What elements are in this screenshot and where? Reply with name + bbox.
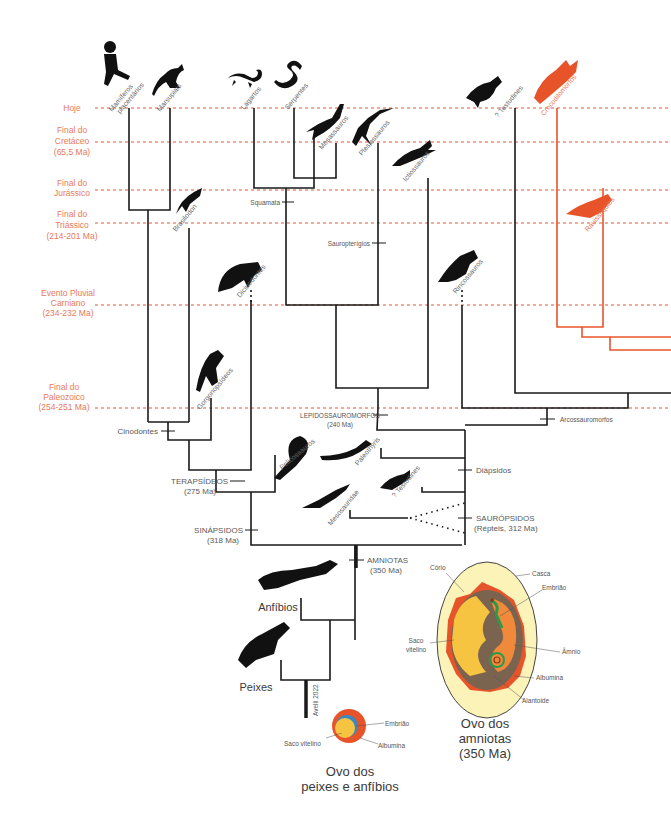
clade-label-amniotas: AMNIOTAS bbox=[367, 556, 408, 565]
clade-label-sinapsidos: (318 Ma) bbox=[207, 536, 239, 545]
egg-label-alantoide: Alantoide bbox=[522, 697, 549, 704]
egg-label-corio: Cório bbox=[430, 564, 446, 571]
amniote-egg-title: amniotas bbox=[459, 731, 512, 746]
era-labels: Hoje Final do Cretáceo (65,5 Ma) Final d… bbox=[38, 103, 97, 412]
clade-label-lepidossauromorfos: LEPIDOSSAUROMORFOS bbox=[300, 412, 380, 419]
clade-label-sauropterigios: Sauropterígios bbox=[328, 240, 371, 248]
phylogeny-diagram: Hoje Final do Cretáceo (65,5 Ma) Final d… bbox=[0, 0, 671, 830]
amphibian-silhouette-icon bbox=[258, 560, 338, 590]
clade-label-diapsidos: Diápsidos bbox=[476, 466, 511, 475]
fish-silhouette-icon bbox=[238, 622, 290, 668]
silhouettes bbox=[104, 41, 502, 668]
era-label-paleozoico: Final do bbox=[49, 382, 80, 392]
era-label-cretaceo: (65,5 Ma) bbox=[54, 147, 91, 157]
fish-egg-label-embriao: Embrião bbox=[385, 720, 410, 727]
era-label-triassico: Triássico bbox=[55, 220, 89, 230]
egg-label-casca: Casca bbox=[532, 570, 551, 577]
kangaroo-silhouette-icon bbox=[152, 64, 184, 96]
taxon-labels: Mamíferos placentários Marsupiais Brasil… bbox=[107, 73, 616, 527]
clade-label-lepidossauromorfos: (240 Ma) bbox=[327, 421, 353, 429]
era-label-jurassico: Final do bbox=[57, 178, 88, 188]
clade-label-squamata: Squamata bbox=[250, 199, 280, 207]
orange-silhouettes bbox=[534, 60, 612, 218]
era-label-triassico: (214-201 Ma) bbox=[46, 231, 97, 241]
era-label-carniano: (234-232 Ma) bbox=[42, 308, 93, 318]
clade-label-terapsideos: (275 Ma) bbox=[184, 487, 216, 496]
taxon-label-lagartos: Lagartos bbox=[239, 85, 263, 111]
egg-label-amnio: Âmnio bbox=[562, 647, 581, 655]
era-label-carniano: Carniano bbox=[51, 298, 86, 308]
era-label-triassico: Final do bbox=[57, 209, 88, 219]
clade-label-terapsideos: TERAPSÍDEOS bbox=[171, 477, 228, 486]
era-label-hoje: Hoje bbox=[63, 103, 81, 113]
era-label-cretaceo: Final do bbox=[57, 125, 88, 135]
clade-label-cinodontes: Cinodontes bbox=[118, 427, 158, 436]
clade-label-amniotas: (350 Ma) bbox=[370, 566, 402, 575]
fish-egg-title: peixes e anfíbios bbox=[301, 779, 399, 794]
crocodilomorph-branches bbox=[557, 108, 671, 350]
fish-egg-title: Ovo dos bbox=[326, 764, 375, 779]
turtle-silhouette-icon bbox=[466, 76, 502, 108]
egg-label-embriao: Embrião bbox=[542, 584, 567, 591]
lizard-silhouette-icon bbox=[228, 70, 262, 89]
fish-egg-label-saco: Saco vitelino bbox=[284, 740, 321, 747]
amniote-egg-title: (350 Ma) bbox=[459, 746, 511, 761]
snake-silhouette-icon bbox=[274, 61, 302, 89]
clade-label-sauropsidos: (Répteis, 312 Ma) bbox=[474, 524, 538, 533]
clade-label-arcossauromorfos: Arcossauromorfos bbox=[560, 416, 613, 423]
era-lines bbox=[95, 108, 671, 408]
era-label-paleozoico: Paleozoico bbox=[43, 392, 85, 402]
egg-label-saco-vitelino: vitelino bbox=[406, 646, 427, 653]
clade-label-peixes: Peixes bbox=[239, 681, 273, 693]
fish-egg-label-albumina: Albumina bbox=[378, 742, 405, 749]
clade-label-sinapsidos: SINÁPSIDOS bbox=[194, 526, 243, 535]
era-label-paleozoico: (254-251 Ma) bbox=[38, 402, 89, 412]
egg-label-saco-vitelino: Saco bbox=[409, 637, 424, 644]
human-silhouette-icon bbox=[104, 41, 130, 86]
sauropsid-dotted-branches bbox=[410, 503, 465, 533]
clade-label-anfibios: Anfíbios bbox=[258, 601, 298, 613]
era-label-cretaceo: Cretáceo bbox=[55, 136, 90, 146]
egg-label-albumina: Albumina bbox=[536, 674, 563, 681]
clade-label-sauropsidos: SAURÓPSIDOS bbox=[476, 514, 535, 523]
credit-label: Avelli 2022 bbox=[312, 684, 319, 716]
era-label-jurassico: Jurássico bbox=[54, 188, 90, 198]
era-label-carniano: Evento Pluvial bbox=[41, 288, 95, 298]
taxon-label-testudines: ? Testudines bbox=[493, 84, 524, 119]
amniote-egg-title: Ovo dos bbox=[461, 716, 510, 731]
fish-egg bbox=[332, 709, 366, 743]
